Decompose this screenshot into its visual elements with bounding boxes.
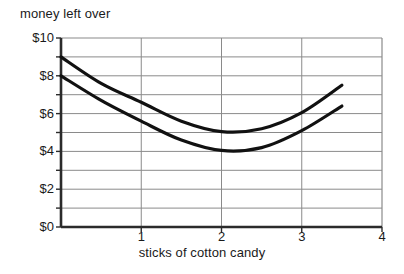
x-axis-title: sticks of cotton candy bbox=[0, 245, 404, 260]
x-tick-label: 1 bbox=[129, 229, 153, 244]
y-tick-label: $6 bbox=[8, 106, 54, 121]
data-curves bbox=[61, 57, 342, 151]
y-tick-label: $10 bbox=[8, 30, 54, 45]
chart-figure: money left over $0$2$4$6$8$10 1234 stick… bbox=[0, 0, 404, 274]
x-tick-label: 4 bbox=[370, 229, 394, 244]
x-tick-label: 2 bbox=[210, 229, 234, 244]
x-tick-label: 3 bbox=[290, 229, 314, 244]
y-tick-label: $8 bbox=[8, 68, 54, 83]
y-tick-label: $0 bbox=[8, 219, 54, 234]
y-tick-label: $2 bbox=[8, 181, 54, 196]
plot-area bbox=[0, 0, 404, 274]
y-tick-label: $4 bbox=[8, 143, 54, 158]
